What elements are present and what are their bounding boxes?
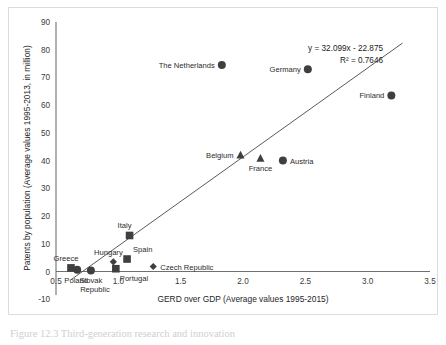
y-axis-title: Patents by population (Average values 19… — [22, 45, 32, 271]
data-point-marker — [110, 258, 117, 265]
data-point-label: Finland — [359, 91, 384, 100]
data-point-marker — [87, 266, 95, 274]
scatter-chart: -100102030405060708090 0.51.01.52.02.53.… — [0, 0, 446, 345]
data-point-label: Germany — [270, 65, 301, 74]
data-point-marker — [112, 265, 120, 273]
data-point-marker — [73, 266, 81, 274]
y-tick-label: 50 — [41, 129, 51, 138]
y-tick-label: -10 — [38, 295, 50, 304]
data-point-marker — [126, 232, 134, 240]
data-point-label: Spain — [133, 245, 152, 254]
data-point-labels: The NetherlandsGermanyFinlandBelgiumFran… — [54, 61, 385, 294]
data-point-marker — [256, 154, 264, 162]
data-point-marker — [236, 151, 244, 159]
data-point-marker — [387, 91, 395, 99]
trendline-equation-label: y = 32.099x - 22.875 — [308, 44, 383, 53]
x-tick-label: 2.0 — [237, 277, 249, 286]
figure-root: -100102030405060708090 0.51.01.52.02.53.… — [0, 0, 446, 345]
y-tick-label: 30 — [41, 184, 51, 193]
data-point-label: The Netherlands — [159, 61, 215, 70]
x-tick-label: 3.5 — [424, 277, 436, 286]
y-tick-label: 80 — [41, 46, 51, 55]
y-tick-label: 40 — [41, 157, 51, 166]
y-tick-label: 10 — [41, 240, 51, 249]
x-axis-title: GERD over GDP (Average values 1995-2015) — [158, 294, 329, 304]
y-tick-label: 70 — [41, 73, 51, 82]
data-point-marker — [123, 255, 131, 263]
data-point-label: Greece — [54, 254, 79, 263]
data-point-label: Belgium — [206, 151, 233, 160]
x-tick-label: 2.5 — [300, 277, 312, 286]
data-point-marker — [218, 61, 226, 69]
y-tick-label: 90 — [41, 18, 51, 27]
data-point-marker — [304, 65, 312, 73]
data-point-label: Italy — [118, 221, 132, 230]
trendline-r2-label: R² = 0.7646 — [340, 56, 383, 65]
figure-caption-text: Figure 12.3 Third-generation research an… — [10, 327, 250, 340]
data-point-label: France — [249, 164, 273, 173]
data-point-markers — [67, 61, 395, 274]
data-point-label: SlovakRepublic — [80, 276, 110, 294]
figure-caption: Figure 12.3 Third-generation research an… — [10, 327, 250, 341]
data-point-label: Hungary — [94, 248, 123, 257]
data-point-label: Portugal — [120, 274, 149, 283]
data-point-marker — [150, 263, 157, 270]
data-point-label: Austria — [290, 157, 314, 166]
y-tick-label: 60 — [41, 101, 51, 110]
x-tick-label: 1.5 — [175, 277, 187, 286]
x-tick-label: 3.0 — [362, 277, 374, 286]
x-tick-label: 0.5 — [50, 277, 62, 286]
y-tick-label: 20 — [41, 212, 51, 221]
trendline — [71, 43, 403, 280]
y-tick-label: 0 — [45, 268, 50, 277]
data-point-marker — [279, 157, 287, 165]
data-point-label: Czech Republic — [160, 263, 213, 272]
y-axis-tick-labels: -100102030405060708090 — [38, 18, 50, 304]
